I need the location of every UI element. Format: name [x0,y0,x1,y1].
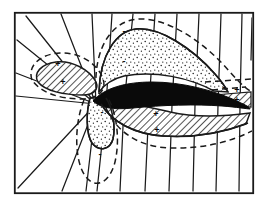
sign-label: + [234,95,239,105]
sign-label: + [60,77,65,87]
sign-label: + [153,109,158,119]
sign-label: - [123,56,126,66]
sign-label: + [154,125,159,135]
figure-canvas: + + - - - - + + - + + [0,0,268,208]
sign-label: + [234,85,239,95]
airfoil-pressure-figure: + + - - - - + + - + + [0,0,268,208]
sign-label: + [55,59,60,69]
sign-label: - [99,149,102,159]
sign-label: - [123,26,126,36]
sign-label: - [223,82,226,92]
sign-label: - [101,107,104,117]
